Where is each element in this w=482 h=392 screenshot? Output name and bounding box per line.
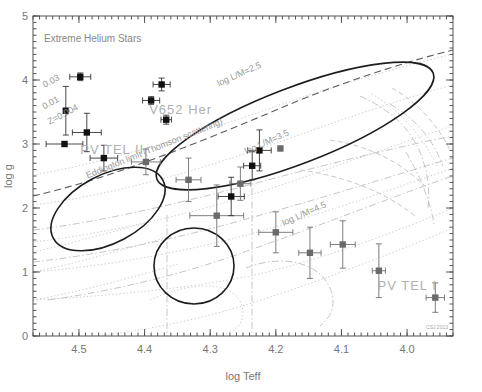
scatter-marker [158, 81, 164, 87]
scatter-marker [376, 268, 382, 274]
scatter-marker [77, 74, 83, 80]
group-ellipse-v652-her [154, 228, 234, 304]
scatter-marker [143, 159, 149, 165]
track-dashdot-loop-1 [360, 96, 429, 208]
metallicity-001-label: 0.01 [40, 94, 60, 111]
figure-credit: CSJ 2013 [426, 324, 448, 330]
log-lm-45-label: log L/M=4.5 [280, 199, 327, 227]
x-tick-label: 4.0 [399, 343, 414, 355]
track-z-0p03 [33, 264, 178, 300]
y-tick-label: 2 [22, 202, 28, 214]
track-dotted-right-4 [372, 94, 438, 168]
track-dashdot-loop-2 [390, 104, 443, 166]
y-axis-title: log g [2, 164, 14, 188]
pv-tel-i-label: PV TEL I [378, 278, 437, 293]
y-tick-label: 1 [22, 266, 28, 278]
y-tick-label: 3 [22, 138, 28, 150]
scatter-marker [277, 145, 283, 151]
log-lm-35-label: log L/M=3.5 [243, 128, 290, 156]
y-tick-label: 0 [22, 330, 28, 342]
plot-title: Extreme Helium Stars [44, 33, 141, 44]
data-point [46, 141, 83, 147]
evolutionary-tracks-group [33, 54, 453, 340]
data-point [70, 73, 91, 81]
scatter-marker [249, 163, 255, 169]
track-contour-lower-middle [150, 286, 243, 337]
data-point [277, 145, 283, 151]
scatter-marker [432, 294, 438, 300]
log-lm-25-label: log L/M=2.5 [215, 60, 262, 88]
scatter-marker [307, 250, 313, 256]
data-points-layer [46, 73, 444, 312]
x-tick-label: 4.3 [203, 343, 218, 355]
data-point [330, 221, 355, 268]
data-point [190, 185, 244, 246]
scatter-marker [185, 177, 191, 183]
pv-tel-ii-label: PV TEL II [80, 142, 144, 157]
metallicity-003-label: 0.03 [41, 72, 61, 89]
scatter-marker [228, 193, 234, 199]
x-tick-label: 4.2 [268, 343, 283, 355]
x-tick-label: 4.5 [71, 343, 86, 355]
y-tick-label: 5 [22, 10, 28, 22]
data-point [153, 78, 170, 91]
scatter-marker [61, 141, 67, 147]
scatter-marker [273, 229, 279, 235]
annotations-layer: Eddington limit (Thomson scattering)PV T… [40, 60, 436, 293]
extreme-helium-stars-scatter-plot: Eddington limit (Thomson scattering)PV T… [0, 0, 482, 392]
data-point [299, 227, 321, 278]
y-tick-label: 4 [22, 74, 28, 86]
data-point [176, 158, 201, 202]
x-tick-label: 4.1 [334, 343, 349, 355]
v652-her-label: V652 Her [149, 102, 212, 117]
scatter-marker [340, 241, 346, 247]
scatter-marker [163, 116, 169, 122]
scatter-marker [237, 180, 243, 186]
figure-container: Eddington limit (Thomson scattering)PV T… [0, 0, 482, 392]
x-axis-title: log Teff [225, 370, 261, 382]
scatter-marker [214, 212, 220, 218]
track-contour-lower-right [246, 261, 333, 326]
scatter-marker [84, 129, 90, 135]
track-z-0p01 [33, 238, 165, 272]
x-tick-label: 4.4 [137, 343, 152, 355]
